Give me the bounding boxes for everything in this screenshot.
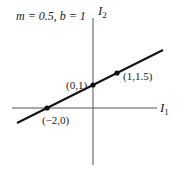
point-label-1-1.5: (1,1.5) bbox=[123, 70, 153, 83]
point-0-1 bbox=[90, 82, 95, 87]
point-1-1.5 bbox=[114, 70, 119, 75]
y-axis-label: I2 bbox=[97, 3, 107, 20]
diagram-canvas: m = 0.5, b = 1 I2 I1 (0,1) (1,1.5) (−2,0… bbox=[0, 0, 179, 171]
x-axis-label: I1 bbox=[159, 100, 169, 117]
annotation-text: m = 0.5, b = 1 bbox=[16, 9, 86, 23]
point-neg2-0 bbox=[44, 105, 49, 110]
line-diagram: m = 0.5, b = 1 I2 I1 (0,1) (1,1.5) (−2,0… bbox=[0, 0, 179, 171]
point-label-neg2-0: (−2,0) bbox=[42, 114, 70, 127]
data-line bbox=[17, 50, 163, 123]
point-label-0-1: (0,1) bbox=[66, 79, 87, 92]
